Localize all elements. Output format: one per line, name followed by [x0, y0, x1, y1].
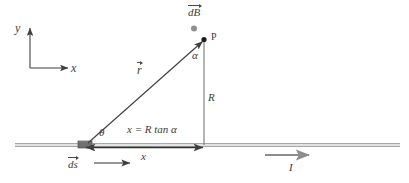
dB-label: dB	[188, 7, 200, 18]
x-axis-label: x	[71, 62, 76, 74]
axis-indicator	[30, 28, 68, 68]
dB-field-dot	[191, 26, 197, 32]
diagram-canvas	[0, 0, 409, 183]
current-label: I	[289, 162, 293, 173]
point-p-label: P	[211, 32, 217, 42]
R-distance-label: R	[208, 92, 215, 103]
alpha-angle-label: α	[192, 50, 198, 61]
biot-savart-diagram: y x dB P α r R θ x = R tan α x ds I	[0, 0, 409, 183]
x-distance-label: x	[141, 151, 146, 162]
current-carrying-wire	[15, 144, 400, 147]
y-axis-label: y	[15, 22, 20, 34]
ds-label: ds	[68, 159, 78, 170]
theta-angle-label: θ	[99, 127, 104, 138]
r-vector-label: r	[137, 64, 142, 76]
x-equals-R-tan-alpha-equation: x = R tan α	[127, 124, 177, 135]
point-p-marker	[201, 37, 206, 42]
